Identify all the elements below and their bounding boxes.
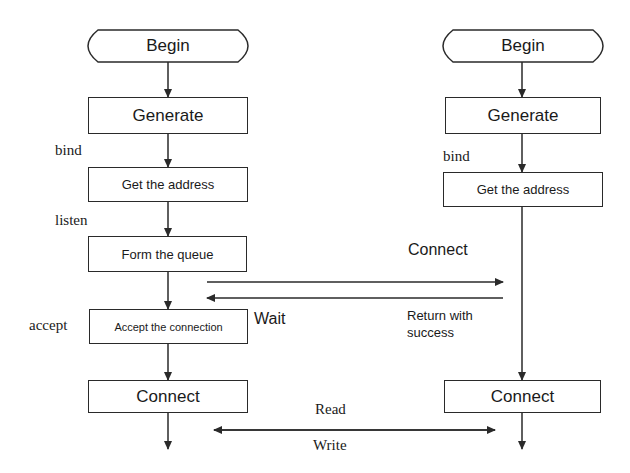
server-form-queue-label: Form the queue <box>122 247 214 262</box>
msg-write-label: Write <box>313 437 347 454</box>
msg-wait-label: Wait <box>254 310 285 328</box>
server-get-address-label: Get the address <box>122 177 215 192</box>
msg-return-label: Return with success <box>407 307 473 341</box>
server-connect-label: Connect <box>136 387 199 407</box>
server-accept-label: accept <box>29 317 67 334</box>
server-generate-node: Generate <box>88 97 248 134</box>
client-connect-node: Connect <box>444 380 601 413</box>
server-accept-connection-label: Accept the connection <box>114 321 222 333</box>
server-connect-node: Connect <box>88 380 248 413</box>
server-begin-node: Begin <box>88 30 248 62</box>
client-generate-label: Generate <box>488 106 559 126</box>
client-get-address-label: Get the address <box>477 182 570 197</box>
msg-connect-label: Connect <box>408 241 468 259</box>
server-bind-label: bind <box>55 142 82 159</box>
msg-return-line2: success <box>407 324 473 341</box>
server-listen-label: listen <box>55 212 88 229</box>
client-bind-label: bind <box>443 148 470 165</box>
client-get-address-node: Get the address <box>443 172 603 207</box>
client-begin-label: Begin <box>501 36 544 56</box>
client-generate-node: Generate <box>445 97 601 134</box>
server-begin-label: Begin <box>146 36 189 56</box>
server-form-queue-node: Form the queue <box>88 236 247 272</box>
msg-read-label: Read <box>315 401 346 418</box>
client-begin-node: Begin <box>443 30 603 62</box>
msg-return-line1: Return with <box>407 307 473 324</box>
server-get-address-node: Get the address <box>88 167 248 202</box>
client-connect-label: Connect <box>491 387 554 407</box>
server-generate-label: Generate <box>133 106 204 126</box>
server-accept-connection-node: Accept the connection <box>89 309 248 344</box>
